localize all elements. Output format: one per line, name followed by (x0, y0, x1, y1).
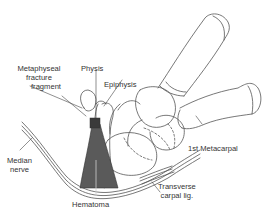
label-epiphysis: Epiphysis (104, 80, 137, 89)
first-metacarpal-bone (178, 83, 261, 128)
wrist-fracture-diagram: Metaphyseal fracture fragment Physis Epi… (0, 0, 277, 215)
hematoma-shape (80, 118, 118, 196)
hidden-outlines (124, 124, 175, 160)
label-median-nerve: Median nerve (7, 156, 32, 174)
label-first-metacarpal: 1st Metacarpal (188, 144, 238, 153)
anatomy-drawing (0, 0, 277, 215)
label-metaphyseal-fracture-fragment: Metaphyseal fracture fragment (17, 64, 61, 91)
metaphyseal-fragment (81, 90, 96, 111)
label-transverse-carpal-ligament: Transverse carpal lig. (158, 182, 196, 200)
label-physis: Physis (81, 64, 103, 73)
label-hematoma: Hematoma (72, 200, 109, 209)
carpal-bones (104, 87, 184, 176)
metacarpal-upper (158, 14, 229, 96)
